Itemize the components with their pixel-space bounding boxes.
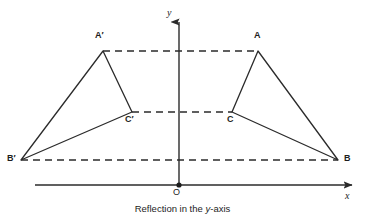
caption-prefix: Reflection in the [135,203,206,214]
reflection-diagram-figure: A B C A′ B′ C′ y x O Reflection in the y… [0,0,365,223]
origin-label: O [173,188,180,197]
triangle-abc [232,51,338,160]
vertex-label-a: A [254,31,261,40]
axes-group [35,22,352,188]
diagram-canvas [0,0,365,223]
vertex-label-a-prime: A′ [95,31,104,40]
vertex-label-c: C [227,115,234,124]
y-axis-label: y [167,8,171,18]
vertex-label-b-prime: B′ [7,154,16,163]
vertex-label-b: B [344,154,351,163]
x-axis-label: x [345,191,349,201]
caption-suffix: -axis [210,203,230,214]
triangle-a-prime-b-prime-c-prime [21,51,132,160]
vertex-label-c-prime: C′ [125,115,134,124]
figure-caption: Reflection in the y-axis [0,203,365,214]
